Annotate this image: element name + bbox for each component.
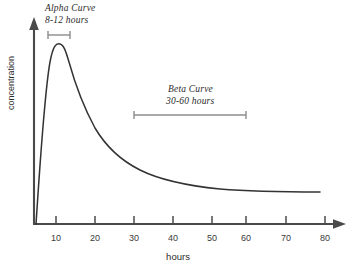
x-tick-label-60: 60 — [241, 233, 251, 243]
x-tick-label-10: 10 — [51, 233, 61, 243]
x-axis-title: hours — [166, 251, 190, 262]
chart-canvas — [0, 0, 353, 272]
x-tick-label-20: 20 — [90, 233, 100, 243]
alpha-curve-label: Alpha Curve — [45, 3, 95, 13]
x-tick-label-80: 80 — [320, 233, 330, 243]
x-tick-label-40: 40 — [168, 233, 178, 243]
beta-range-bracket — [134, 111, 246, 119]
x-axis-arrowhead — [333, 219, 346, 229]
beta-curve-range: 30-60 hours — [166, 96, 214, 106]
y-axis-arrowhead — [29, 17, 39, 30]
x-tick-label-50: 50 — [207, 233, 217, 243]
beta-curve-label: Beta Curve — [168, 84, 213, 94]
y-axis-title: concentration — [6, 96, 16, 110]
x-tick-label-70: 70 — [281, 233, 291, 243]
pharmacokinetic-curve-figure: Alpha Curve 8-12 hours Beta Curve 30-60 … — [0, 0, 353, 272]
x-axis — [33, 219, 346, 229]
x-axis-ticks — [56, 216, 325, 224]
x-tick-label-30: 30 — [129, 233, 139, 243]
alpha-range-bracket — [48, 31, 70, 39]
concentration-curve — [36, 44, 320, 224]
alpha-curve-range: 8-12 hours — [45, 15, 88, 25]
